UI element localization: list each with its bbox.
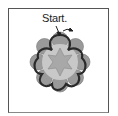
- knot-flower-diagram: [0, 0, 118, 116]
